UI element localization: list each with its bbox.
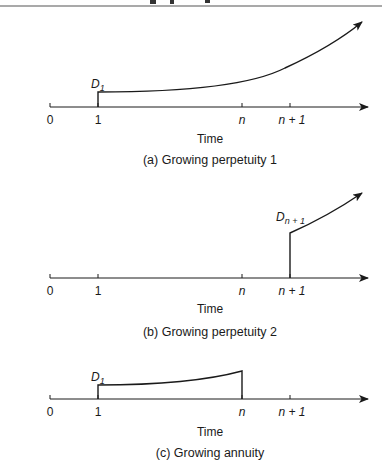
tick-label-0: 0 [47,405,54,419]
dividend-label: D1 [91,77,105,93]
tick-label-n: n [239,284,246,298]
tick-label-n-plus-1: n + 1 [278,284,305,298]
cash-flow-curve [98,371,242,399]
tick-label-n-plus-1: n + 1 [278,113,305,127]
cash-flow-curve [290,193,362,278]
tick-label-1: 1 [95,284,102,298]
tick-label-1: 1 [95,113,102,127]
x-axis-label: Time [197,302,224,316]
panel-caption: (c) Growing annuity [156,446,265,460]
tick-label-0: 0 [47,284,54,298]
panel-growing-annuity: D1 0 1 n n + 1 Time (c) Growing annuity [47,370,368,460]
diagram-canvas: D1 0 1 n n + 1 Time (a) Growing perpetui… [0,0,382,466]
tick-label-n-plus-1: n + 1 [278,405,305,419]
dividend-label: Dn + 1 [276,210,305,226]
panel-caption: (a) Growing perpetuity 1 [143,153,277,167]
dividend-label: D1 [91,370,105,386]
time-axis [50,274,368,278]
header-rule [0,0,382,6]
panel-growing-perpetuity-1: D1 0 1 n n + 1 Time (a) Growing perpetui… [47,22,368,167]
tick-label-n: n [239,405,246,419]
panel-growing-perpetuity-2: Dn + 1 0 1 n n + 1 Time (b) Growing perp… [47,193,368,339]
tick-label-0: 0 [47,113,54,127]
tick-label-1: 1 [95,405,102,419]
panel-caption: (b) Growing perpetuity 2 [143,325,277,339]
x-axis-label: Time [197,132,224,146]
cash-flow-curve [98,22,362,107]
tick-label-n: n [239,113,246,127]
x-axis-label: Time [197,425,224,439]
